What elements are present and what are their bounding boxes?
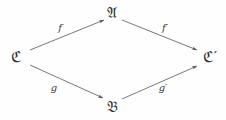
node-label-C: ℭ bbox=[11, 50, 22, 65]
edge-label-g: g bbox=[51, 83, 57, 93]
edge-label-g-prime: g′ bbox=[159, 83, 168, 93]
commutative-diagram: ℭ 𝔄 𝔅 ℭ′ f f′ g g′ bbox=[0, 0, 226, 120]
arrow-g bbox=[30, 65, 103, 98]
edge-label-f-prime: f′ bbox=[162, 23, 168, 33]
node-label-A: 𝔄 bbox=[107, 6, 117, 21]
node-label-C-prime: ℭ′ bbox=[203, 50, 217, 65]
arrow-f bbox=[30, 20, 104, 50]
arrow-f-prime bbox=[122, 20, 197, 50]
edge-label-f: f bbox=[58, 23, 62, 33]
node-label-B: 𝔅 bbox=[107, 100, 118, 115]
